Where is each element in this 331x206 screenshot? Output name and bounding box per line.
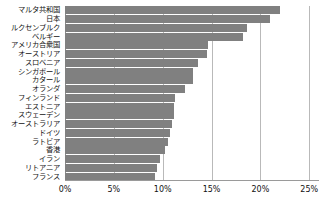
bar-row xyxy=(65,6,319,14)
bar xyxy=(65,33,243,41)
bar xyxy=(65,103,174,111)
bar-row xyxy=(65,24,319,32)
category-label: オーストラリア xyxy=(11,120,60,128)
category-label: 日本 xyxy=(46,15,60,23)
bar-row xyxy=(65,138,319,146)
category-axis-labels: マルタ共和国日本ルクセンブルクベルギーアメリカ合衆国オーストリアスロベニアシンガ… xyxy=(0,6,62,181)
x-axis-tick-labels: 0%5%10%15%20%25% xyxy=(0,182,331,198)
category-label: フランス xyxy=(32,173,60,181)
category-label: イラン xyxy=(39,155,60,163)
x-axis-line xyxy=(65,180,319,181)
bar-row xyxy=(65,111,319,119)
bar xyxy=(65,129,170,137)
x-tick-label: 15% xyxy=(203,185,221,195)
bar xyxy=(65,59,198,67)
bar xyxy=(65,41,208,49)
plot-area xyxy=(65,6,319,181)
category-label: オランダ xyxy=(32,85,60,93)
category-label: スロベニア xyxy=(25,59,60,67)
bar-row xyxy=(65,85,319,93)
bar-row xyxy=(65,164,319,172)
bar-row xyxy=(65,94,319,102)
bar xyxy=(65,76,193,84)
bar-row xyxy=(65,50,319,58)
x-tick-label: 5% xyxy=(107,185,120,195)
bar-row xyxy=(65,41,319,49)
bar-row xyxy=(65,103,319,111)
category-label: リトアニア xyxy=(25,164,60,172)
category-label: オーストリア xyxy=(18,50,60,58)
bar xyxy=(65,164,157,172)
bar-row xyxy=(65,33,319,41)
x-tick-label: 20% xyxy=(251,185,269,195)
category-label: ルクセンブルク xyxy=(11,24,60,32)
bar xyxy=(65,68,193,76)
bar-row xyxy=(65,76,319,84)
bar xyxy=(65,138,168,146)
bar xyxy=(65,120,172,128)
bar xyxy=(65,94,175,102)
bar xyxy=(65,155,160,163)
bar xyxy=(65,85,185,93)
bar xyxy=(65,6,280,14)
bar xyxy=(65,24,247,32)
x-tick-label: 0% xyxy=(59,185,72,195)
category-label: フィンランド xyxy=(18,94,60,102)
bar-rows xyxy=(65,6,319,181)
x-tick-label: 10% xyxy=(154,185,172,195)
bar xyxy=(65,15,270,23)
bar-row xyxy=(65,155,319,163)
bar-row xyxy=(65,15,319,23)
bar-row xyxy=(65,129,319,137)
bar-row xyxy=(65,146,319,154)
bar-row xyxy=(65,68,319,76)
bar xyxy=(65,146,165,154)
category-label: ドイツ xyxy=(39,129,60,137)
x-tick-label: 25% xyxy=(300,185,318,195)
bar xyxy=(65,111,174,119)
bar-row xyxy=(65,120,319,128)
bar-row xyxy=(65,59,319,67)
bar xyxy=(65,50,207,58)
bar-chart: マルタ共和国日本ルクセンブルクベルギーアメリカ合衆国オーストリアスロベニアシンガ… xyxy=(0,0,331,206)
